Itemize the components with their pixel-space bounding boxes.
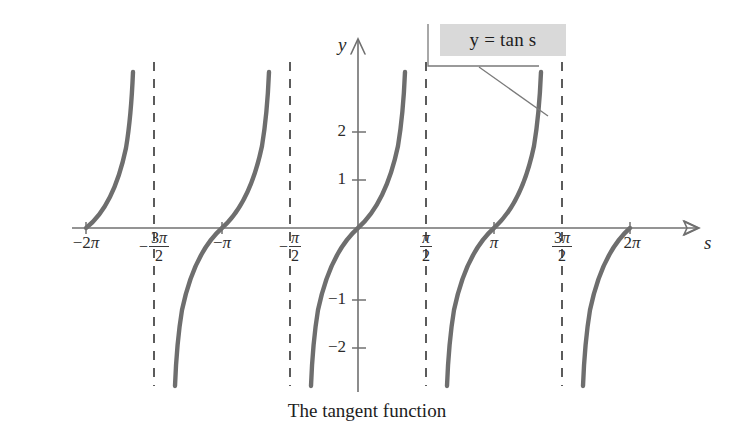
- y-tick-marks: [352, 132, 366, 348]
- plot-canvas: [0, 0, 734, 439]
- tick-label-y-minus-1: −1: [310, 290, 346, 307]
- tick-label-y-2: 2: [316, 122, 346, 139]
- curve-label-callout: y = tan s: [440, 24, 566, 56]
- tangent-branch-minus-2pi: [86, 72, 133, 228]
- axes-group: [72, 39, 699, 392]
- tick-label-minus-pi: −π: [196, 234, 248, 251]
- y-axis-label: y: [338, 34, 346, 56]
- figure-caption: The tangent function: [0, 400, 734, 422]
- tick-label-3pi-over-2: 3π2: [532, 230, 592, 265]
- tick-label-y-minus-2: −2: [310, 338, 346, 355]
- tangent-branch-pi: [447, 72, 541, 386]
- tick-label-2pi: 2π: [606, 234, 658, 251]
- tick-label-minus-pi-over-2: −π2: [262, 230, 318, 265]
- tick-label-minus-2pi: −2π: [56, 234, 116, 251]
- x-axis-label: s: [704, 232, 711, 254]
- tick-label-y-1: 1: [316, 170, 346, 187]
- tangent-function-figure: y = tan s y s −2π −π π 2π −3π2 −π2 π2 3π…: [0, 0, 734, 439]
- callout-leader-line: [479, 67, 548, 116]
- tick-label-pi-over-2: π2: [400, 230, 452, 265]
- curve-label-text: y = tan s: [470, 29, 537, 51]
- tick-label-pi: π: [470, 234, 518, 251]
- tangent-branch-minus-pi: [175, 72, 269, 386]
- tick-label-minus-3pi-over-2: −3π2: [122, 230, 186, 265]
